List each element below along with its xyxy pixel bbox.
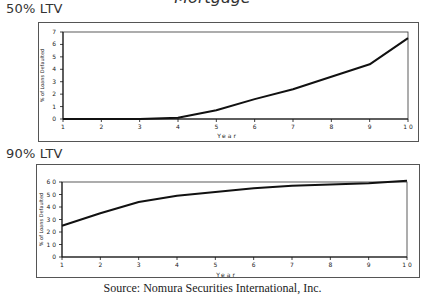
y-tick-label: 0 [52, 253, 56, 260]
x-tick-label: 9 [367, 261, 371, 268]
x-tick-label: 5 [213, 261, 217, 268]
line-chart-90-ltv: 01 02 03 04 05 06 01234567891 0Year% of … [0, 0, 425, 301]
x-tick-label: 6 [252, 261, 256, 268]
y-tick-label: 1 0 [46, 241, 56, 248]
x-tick-label: 7 [290, 261, 294, 268]
y-tick-label: 5 0 [46, 191, 56, 198]
x-tick-label: 3 [137, 261, 141, 268]
x-tick-label: 1 [60, 261, 64, 268]
y-tick-label: 6 0 [46, 178, 56, 185]
data-series-line [62, 181, 407, 226]
source-caption: Source: Nomura Securities International,… [0, 281, 425, 296]
y-tick-label: 4 0 [46, 203, 56, 210]
y-tick-label: 2 0 [46, 228, 56, 235]
x-axis-label: Year [215, 271, 237, 278]
x-tick-label: 1 0 [402, 261, 412, 268]
x-tick-label: 8 [328, 261, 332, 268]
x-tick-label: 4 [175, 261, 179, 268]
y-axis-label: % of Loans Defaulted [38, 193, 44, 246]
plot-border [62, 182, 407, 257]
y-tick-label: 3 0 [46, 216, 56, 223]
plot-area: 01 02 03 04 05 06 01234567891 0Year% of … [38, 178, 412, 278]
x-tick-label: 2 [98, 261, 102, 268]
